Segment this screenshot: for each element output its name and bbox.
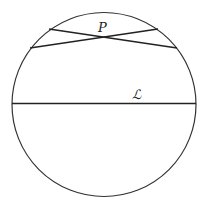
hyperbolic-disk-diagram: P ℒ xyxy=(0,0,205,209)
chord-through-p-2 xyxy=(30,29,158,48)
point-p-label: P xyxy=(97,20,107,35)
chord-through-p-1 xyxy=(49,29,177,48)
line-l-label: ℒ xyxy=(132,87,142,102)
boundary-circle xyxy=(12,13,196,197)
